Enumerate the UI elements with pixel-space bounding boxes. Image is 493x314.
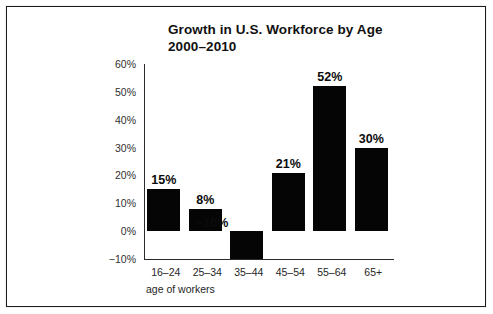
bar-value-label: 8% <box>196 193 214 207</box>
bar <box>272 173 305 232</box>
x-axis-tick-labels: 16–2425–3435–4445–5455–6465+ <box>145 266 394 282</box>
bar <box>230 231 263 259</box>
bar-group: −10% <box>230 64 263 259</box>
bar-value-label: 30% <box>359 132 384 146</box>
bar-series: 15%8%−10%21%52%30% <box>145 64 394 259</box>
bar <box>147 189 180 231</box>
bar-group: 52% <box>313 64 346 259</box>
y-tick-label: 40% <box>115 114 136 126</box>
bar <box>313 86 346 231</box>
bar-group: 15% <box>147 64 180 259</box>
bar-value-label: 21% <box>276 157 301 171</box>
y-tick-label: −10% <box>109 253 136 265</box>
y-tick-label: 60% <box>115 58 136 70</box>
x-tick-label: 55–64 <box>311 266 353 278</box>
plot-area: 60%50%40%30%20%10%0%−10% 15%8%−10%21%52%… <box>144 64 394 259</box>
chart-title: Growth in U.S. Workforce by Age <box>168 22 468 39</box>
bar-value-label: 52% <box>317 70 342 84</box>
x-tick-label: 45–54 <box>270 266 312 278</box>
chart-figure: Growth in U.S. Workforce by Age 2000–201… <box>0 0 493 314</box>
y-tick-label: 50% <box>115 86 136 98</box>
x-tick-label: 35–44 <box>228 266 270 278</box>
x-tick-label: 25–34 <box>187 266 229 278</box>
bar-group: 30% <box>355 64 388 259</box>
bar <box>355 148 388 232</box>
x-axis-line <box>144 259 394 260</box>
bar-value-label: −10% <box>196 216 228 230</box>
x-tick-label: 16–24 <box>145 266 187 278</box>
x-axis-caption: age of workers <box>146 283 215 295</box>
chart-title-block: Growth in U.S. Workforce by Age 2000–201… <box>168 22 468 55</box>
y-tick-label: 10% <box>115 197 136 209</box>
chart-subtitle: 2000–2010 <box>168 39 468 56</box>
x-tick-label: 65+ <box>353 266 395 278</box>
y-tick-label: 0% <box>121 225 136 237</box>
bar-value-label: 15% <box>151 173 176 187</box>
bar-group: 21% <box>272 64 305 259</box>
y-tick-label: 20% <box>115 169 136 181</box>
y-tick-label: 30% <box>115 142 136 154</box>
